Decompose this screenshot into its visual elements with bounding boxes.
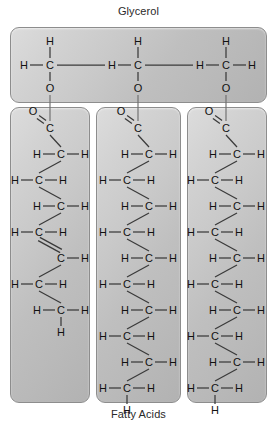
glycerol-title: Glycerol (0, 5, 277, 17)
fatty-acid-panel-saturated-2 (187, 107, 267, 403)
fatty-acids-title: Fatty Acids (0, 408, 277, 420)
glycerol-panel (10, 27, 267, 103)
fatty-acid-panel-saturated-1 (96, 107, 181, 403)
fatty-acid-panel-unsaturated (10, 107, 90, 403)
triglyceride-diagram: Glycerol HHCOHHCOHHCHOCOHHCHHCHHCHHCHCHH… (0, 0, 277, 430)
